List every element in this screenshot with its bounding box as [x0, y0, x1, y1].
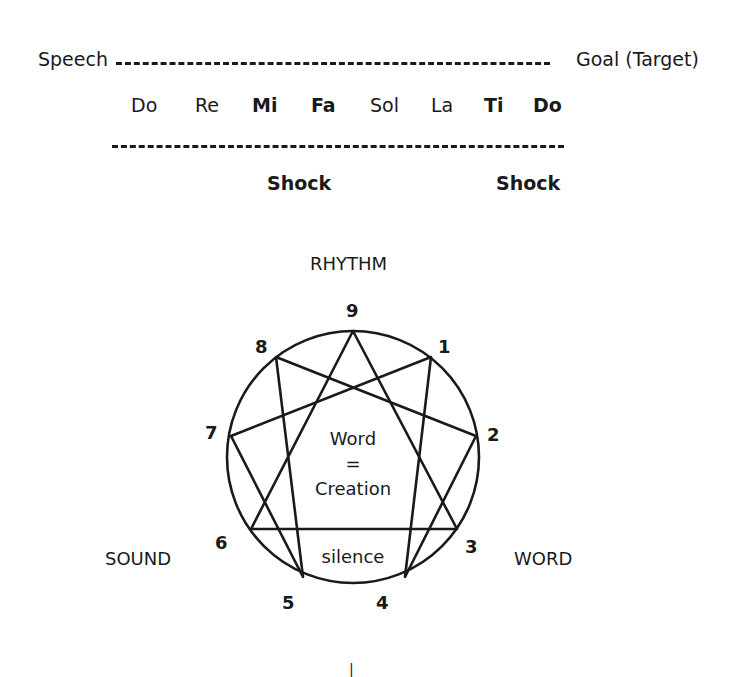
point-2: 2 — [487, 426, 500, 444]
center-word: Word — [313, 430, 393, 448]
point-9: 9 — [346, 302, 359, 320]
point-7: 7 — [205, 424, 218, 442]
bottom-mark: | — [349, 662, 354, 676]
point-8: 8 — [255, 338, 268, 356]
silence-label: silence — [313, 548, 393, 566]
center-equals: = — [313, 455, 393, 473]
point-1: 1 — [438, 338, 451, 356]
point-4: 4 — [376, 594, 389, 612]
point-3: 3 — [465, 538, 478, 556]
point-5: 5 — [282, 594, 295, 612]
point-6: 6 — [215, 534, 228, 552]
center-creation: Creation — [303, 480, 403, 498]
